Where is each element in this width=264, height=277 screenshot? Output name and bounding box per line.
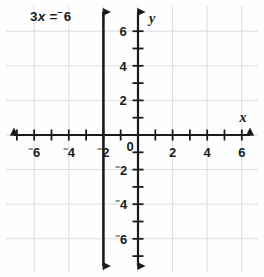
y-tick-label-2: 2 — [119, 93, 126, 108]
y-tick-value: 4 — [120, 197, 127, 212]
x-tick-label-zero: 0 — [126, 139, 133, 154]
y-tick-value: 6 — [120, 232, 127, 247]
y-tick-value: 4 — [119, 58, 126, 73]
x-tick-value: 4 — [68, 145, 75, 160]
y-tick-label-neg2: ⁻2 — [115, 162, 127, 178]
x-tick-value: 6 — [238, 145, 245, 160]
x-tick-label-6: 6 — [238, 145, 245, 160]
equation-variable: x — [38, 9, 46, 24]
x-tick-label-2: 2 — [169, 145, 176, 160]
x-tick-value: 2 — [169, 145, 176, 160]
y-tick-value: 2 — [119, 93, 126, 108]
y-axis-label: y — [149, 11, 155, 27]
y-tick-value: 6 — [119, 24, 126, 39]
x-tick-value: 4 — [204, 145, 211, 160]
x-tick-label-neg4: ⁻4 — [63, 144, 75, 160]
y-tick-value: 2 — [120, 163, 127, 178]
x-tick-label-4: 4 — [204, 145, 211, 160]
x-tick-label-neg6: ⁻6 — [28, 144, 40, 160]
y-tick-label-neg4: ⁻4 — [115, 196, 127, 212]
equation-value: 6 — [64, 9, 72, 24]
y-tick-label-neg6: ⁻6 — [115, 231, 127, 247]
y-tick-label-4: 4 — [119, 58, 126, 73]
graph-screenshot: 3x =⁻6 ⁻6 ⁻4 ⁻2 0 2 4 6 6 4 2 ⁻2 ⁻4 ⁻6 x… — [0, 0, 264, 277]
equation-negative-sign: ⁻ — [57, 8, 63, 20]
x-tick-label-neg2: ⁻2 — [97, 144, 109, 160]
x-tick-value: 6 — [33, 145, 40, 160]
equation-coefficient: 3 — [30, 9, 38, 24]
x-tick-value: 2 — [102, 145, 109, 160]
y-tick-label-6: 6 — [119, 24, 126, 39]
equation-annotation: 3x =⁻6 — [30, 8, 71, 24]
x-tick-value: 0 — [126, 139, 133, 154]
x-axis-label: x — [240, 110, 247, 126]
